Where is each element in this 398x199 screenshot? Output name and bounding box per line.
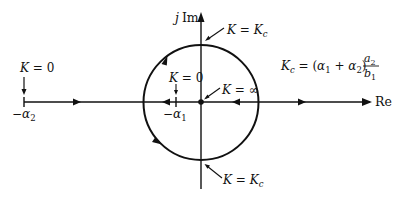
minus-alpha1-label: −α1 — [163, 107, 187, 123]
origin-point — [198, 99, 204, 105]
imag-axis-label: jIm — [172, 10, 199, 25]
minus-alpha2-label: −α2 — [12, 107, 36, 123]
real-axis-arrowhead — [362, 98, 372, 106]
kc-top-pointer — [208, 28, 224, 39]
k0-inner-label: K = 0 — [168, 71, 203, 85]
root-locus-diagram: jIm Re K = 0 K = 0 K = ∞ K = Kc K = Kc −… — [0, 0, 398, 199]
formula-denominator: b1 — [364, 67, 376, 82]
kc-bottom-label: K = Kc — [222, 173, 264, 189]
kinf-pointer-head — [204, 95, 210, 100]
k0-left-label: K = 0 — [19, 61, 54, 75]
kinf-label: K = ∞ — [221, 83, 259, 97]
locus-arrow-left-inner — [162, 99, 170, 106]
locus-arrow-right-outer — [298, 99, 306, 106]
kc-top-label: K = Kc — [226, 23, 268, 39]
formula-lhs: Kc = (α1 + α2) — [280, 59, 367, 75]
locus-arrow-left-right-segment — [232, 99, 240, 106]
locus-arrow-right-left-segment — [73, 99, 81, 106]
kc-formula: Kc = (α1 + α2) a2 b1 — [280, 52, 379, 82]
k0-left-pointer-head — [22, 89, 27, 95]
real-axis-label: Re — [375, 94, 392, 109]
formula-numerator: a2 — [364, 52, 376, 67]
kc-bottom-pointer — [207, 166, 222, 178]
kc-top-pointer-head — [205, 36, 211, 41]
k0-inner-pointer-head — [174, 90, 178, 95]
